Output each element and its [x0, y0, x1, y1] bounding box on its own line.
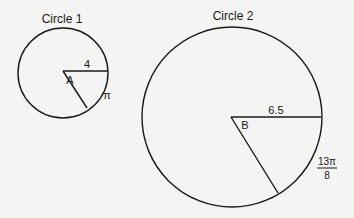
circle-2-group: Circle 2 6.5 B 13π 8: [142, 9, 337, 207]
circle-1-group: Circle 1 4 A π: [18, 12, 111, 118]
circle-1-angle-label: A: [66, 74, 74, 86]
circle-2-title: Circle 2: [213, 9, 254, 23]
circle-1-title: Circle 1: [42, 12, 83, 26]
circle-2-radius-label: 6.5: [268, 104, 283, 116]
circle-1: [18, 28, 108, 118]
diagram-canvas: Circle 1 4 A π Circle 2 6.5 B 13π 8: [0, 0, 354, 218]
circle-2-arc-label-denominator: 8: [324, 170, 330, 181]
circle-2-radius-angled: [231, 117, 278, 193]
circle-1-arc-label: π: [103, 89, 111, 101]
circle-1-radius-label: 4: [84, 58, 90, 70]
circle-2-angle-label: B: [241, 119, 248, 131]
circle-2-arc-label-numerator: 13π: [318, 156, 336, 167]
